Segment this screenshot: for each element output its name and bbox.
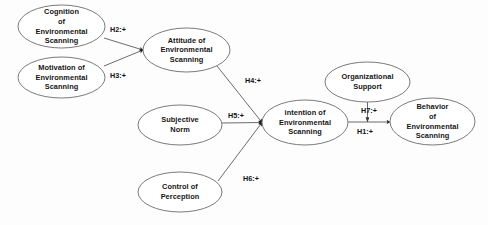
edge-h6 (218, 123, 262, 182)
hypothesis-label-h7: H7:+ (361, 106, 377, 115)
node-ellipse-subjective-norm[interactable] (138, 105, 222, 145)
node-ellipse-motivation[interactable] (18, 57, 105, 98)
hypothesis-label-h5: H5:+ (228, 111, 244, 120)
node-ellipse-intention[interactable] (262, 100, 348, 145)
node-ellipse-organizational-support[interactable] (325, 62, 410, 102)
diagram-canvas-container: Cognition of Environmental ScanningMotiv… (0, 0, 488, 225)
node-ellipse-attitude[interactable] (143, 28, 230, 72)
hypothesis-label-h3: H3:+ (110, 71, 126, 80)
hypothesis-label-h2: H2:+ (110, 25, 126, 34)
node-ellipse-behavior[interactable] (390, 98, 475, 145)
node-ellipse-cognition[interactable] (18, 5, 105, 48)
hypothesis-label-h1: H1:+ (357, 127, 373, 136)
path-model-diagram (0, 0, 488, 225)
edge-h5 (222, 123, 262, 124)
hypothesis-label-h4: H4:+ (245, 76, 261, 85)
edge-h3 (104, 50, 143, 66)
edge-h2 (104, 38, 143, 50)
node-ellipse-control-of-perception[interactable] (138, 172, 222, 212)
hypothesis-label-h6: H6:+ (243, 174, 259, 183)
